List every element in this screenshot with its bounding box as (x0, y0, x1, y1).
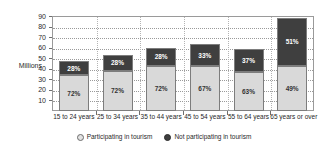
bar-group[interactable]: 49%51% (277, 18, 307, 111)
bar-segment-label: 28% (111, 59, 124, 66)
y-axis-tick-label: 10 (26, 97, 46, 104)
bar-segment-label: 72% (67, 90, 80, 97)
bar-segment-label: 72% (111, 87, 124, 94)
bar-group[interactable]: 72%28% (103, 55, 133, 111)
bar-segment-participating[interactable]: 49% (277, 66, 307, 111)
bar-segment-label: 72% (155, 85, 168, 92)
stacked-bar-chart: Millions 908070605040302010 72%28%72%28%… (0, 0, 328, 150)
bar-segment-participating[interactable]: 72% (59, 75, 89, 111)
bar-segment-not-participating[interactable]: 28% (146, 48, 176, 66)
bar-segment-label: 28% (67, 65, 80, 72)
x-axis-tick-label: 45 to 54 years (183, 113, 227, 121)
bar-segment-label: 49% (286, 85, 299, 92)
bar-segment-label: 63% (242, 88, 255, 95)
x-axis-tick-label: 25 to 34 years (96, 113, 140, 121)
bar-segment-label: 67% (198, 85, 211, 92)
x-axis-tick-label: 55 to 64 years (227, 113, 271, 121)
bar-group[interactable]: 67%33% (190, 44, 220, 111)
x-axis-tick-label: 15 to 24 years (52, 113, 96, 121)
legend-item[interactable]: Participating in tourism (77, 133, 153, 141)
bar-segment-not-participating[interactable]: 37% (234, 49, 264, 72)
bar-segment-label: 28% (155, 53, 168, 60)
legend-item[interactable]: Not participating in tourism (164, 133, 251, 141)
light-circle-icon (77, 134, 84, 141)
y-axis-tick-label: 50 (26, 55, 46, 62)
bar-segment-not-participating[interactable]: 33% (190, 44, 220, 66)
bar-segment-label: 51% (286, 38, 299, 45)
y-axis-tick-label: 70 (26, 34, 46, 41)
x-axis-tick-label: 65 years or over (270, 113, 314, 121)
y-axis-tick-label: 30 (26, 76, 46, 83)
bar-segment-not-participating[interactable]: 28% (103, 55, 133, 71)
x-axis-tick-labels: 15 to 24 years25 to 34 years35 to 44 yea… (52, 113, 314, 125)
bar-segment-participating[interactable]: 72% (146, 66, 176, 111)
chart-legend: Participating in tourismNot participatin… (0, 133, 328, 141)
bar-segment-participating[interactable]: 67% (190, 66, 220, 111)
y-axis-tick-label: 90 (26, 13, 46, 20)
y-axis-tick-label: 20 (26, 86, 46, 93)
legend-label: Participating in tourism (87, 133, 153, 141)
y-axis-tick-label: 60 (26, 44, 46, 51)
bar-segment-label: 33% (198, 52, 211, 59)
bar-series-layer: 72%28%72%28%72%28%67%33%63%37%49%51% (52, 16, 314, 111)
y-axis-tick-label: 40 (26, 65, 46, 72)
bar-segment-participating[interactable]: 72% (103, 71, 133, 111)
bar-segment-label: 37% (242, 57, 255, 64)
bar-segment-not-participating[interactable]: 28% (59, 61, 89, 75)
y-axis-tick-label: 80 (26, 23, 46, 30)
bar-segment-not-participating[interactable]: 51% (277, 18, 307, 66)
bar-group[interactable]: 63%37% (234, 49, 264, 111)
x-axis-tick-label: 35 to 44 years (139, 113, 183, 121)
bar-segment-participating[interactable]: 63% (234, 72, 264, 111)
dark-circle-icon (164, 134, 171, 141)
bar-group[interactable]: 72%28% (59, 61, 89, 111)
legend-label: Not participating in tourism (174, 133, 251, 141)
bar-group[interactable]: 72%28% (146, 48, 176, 111)
